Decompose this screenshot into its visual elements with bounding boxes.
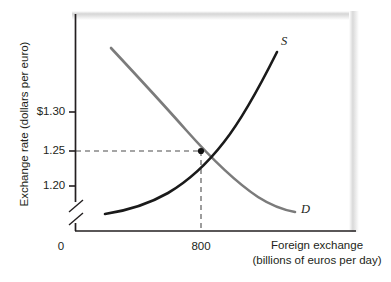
demand-curve-label: D — [301, 202, 310, 217]
x-axis-origin-label: 0 — [48, 240, 74, 252]
plot-shadow — [72, 11, 359, 232]
y-axis-break-icon — [69, 200, 83, 225]
y-tick-label-125: 1.25 — [10, 144, 65, 156]
equilibrium-guides — [76, 151, 201, 231]
x-axis-title: Foreign exchange (billions of euros per … — [243, 238, 391, 268]
x-tick-label-800: 800 — [181, 240, 221, 252]
equilibrium-point — [198, 148, 204, 154]
exchange-rate-figure: Exchange rate (dollars per euro) $1.30 1… — [0, 0, 391, 282]
y-tick-label-130: $1.30 — [10, 105, 65, 117]
x-axis-title-line1: Foreign exchange — [243, 238, 391, 253]
y-axis-title: Exchange rate (dollars per euro) — [18, 14, 30, 234]
y-tick-label-120: 1.20 — [10, 179, 65, 191]
supply-curve — [105, 52, 277, 214]
supply-curve-label: S — [281, 34, 287, 49]
x-axis-title-line2: (billions of euros per day) — [243, 253, 391, 268]
